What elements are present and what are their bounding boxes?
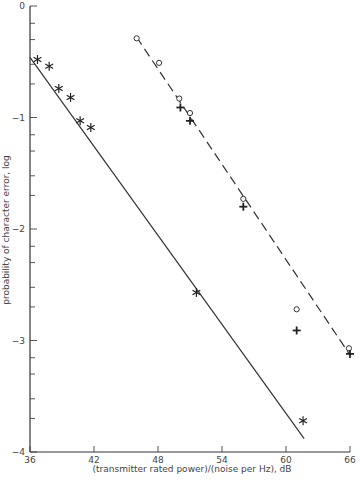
asterisk-point xyxy=(299,416,307,425)
asterisk-point xyxy=(67,93,75,102)
asterisk-point xyxy=(34,55,42,64)
plus-point xyxy=(186,117,194,125)
circle-point xyxy=(177,96,182,101)
x-tick-label: 66 xyxy=(344,455,356,465)
axes: 3642485460660−1−2−3−4 xyxy=(12,1,356,465)
asterisk-point xyxy=(45,62,53,71)
fit-lines xyxy=(30,37,350,438)
plus-point xyxy=(239,203,247,211)
circle-point xyxy=(187,110,192,115)
x-tick-label: 36 xyxy=(24,455,36,465)
plus-point xyxy=(176,103,184,111)
circle-point xyxy=(241,196,246,201)
y-tick-label: −1 xyxy=(12,113,25,123)
circle-point xyxy=(156,60,161,65)
solid-fit-line xyxy=(30,57,304,438)
y-tick-label: −2 xyxy=(12,224,25,234)
asterisk-point xyxy=(87,123,95,132)
chart: 3642485460660−1−2−3−4 (transmitter rated… xyxy=(0,0,362,481)
y-tick-label: −4 xyxy=(12,447,26,457)
plus-point xyxy=(293,326,301,334)
plus-point xyxy=(346,350,354,358)
circle-point xyxy=(134,36,139,41)
data-marks xyxy=(34,36,354,426)
y-tick-label: −3 xyxy=(12,336,25,346)
y-tick-label: 0 xyxy=(19,1,25,11)
asterisk-point xyxy=(55,84,63,93)
circle-point xyxy=(294,307,299,312)
y-axis-title: probability of character error, log xyxy=(1,155,11,305)
x-axis-title: (transmitter rated power)/(noise per Hz)… xyxy=(92,464,291,474)
